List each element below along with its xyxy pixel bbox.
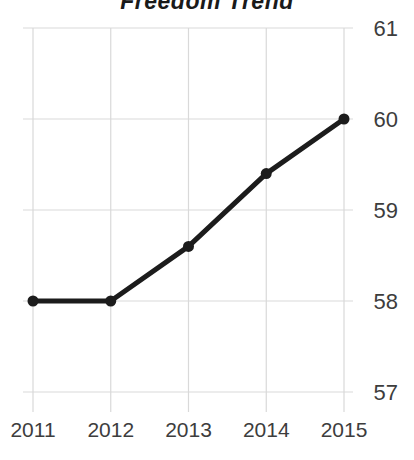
y-tick-label: 57 bbox=[374, 380, 398, 405]
x-tick-label: 2014 bbox=[243, 418, 290, 441]
y-tick-label: 59 bbox=[374, 198, 398, 223]
data-point-2015 bbox=[339, 114, 350, 125]
freedom-trend-chart: Freedom Trend 57585960612011201220132014… bbox=[0, 0, 414, 460]
y-tick-label: 61 bbox=[374, 16, 398, 41]
x-tick-label: 2012 bbox=[87, 418, 134, 441]
line-chart-canvas: 575859606120112012201320142015 bbox=[0, 0, 414, 460]
data-point-2013 bbox=[183, 241, 194, 252]
x-tick-label: 2013 bbox=[165, 418, 212, 441]
data-point-2012 bbox=[105, 296, 116, 307]
data-point-2014 bbox=[261, 168, 272, 179]
x-tick-label: 2011 bbox=[10, 418, 55, 441]
y-tick-label: 58 bbox=[374, 289, 398, 314]
x-tick-label: 2015 bbox=[321, 418, 368, 441]
y-tick-label: 60 bbox=[374, 107, 398, 132]
data-point-2011 bbox=[28, 296, 39, 307]
